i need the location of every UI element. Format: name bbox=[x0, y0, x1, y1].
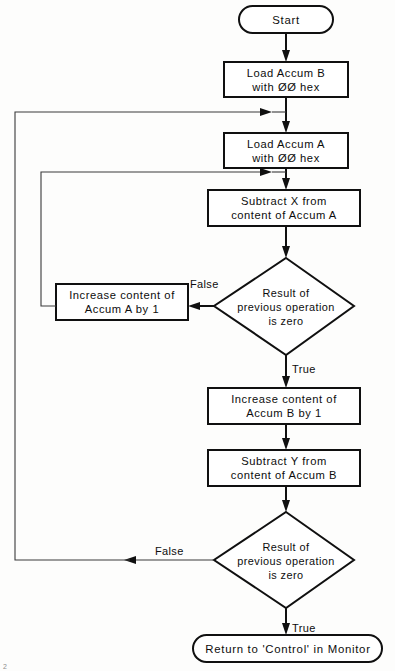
edge-increase-b-to-subtract-y bbox=[282, 424, 290, 450]
node-increase-accum-b: Increase content of Accum B by 1 bbox=[208, 388, 360, 424]
load-accum-a-line1: Load Accum A bbox=[247, 138, 325, 150]
decision-a-line3: is zero bbox=[268, 315, 303, 327]
subtract-y-line2: content of Accum B bbox=[231, 469, 337, 481]
decision-a-line1: Result of bbox=[262, 287, 310, 299]
decision-a-false-label: False bbox=[190, 278, 219, 290]
edge-start-to-load-b bbox=[282, 33, 290, 62]
flowchart-canvas: Start Load Accum B with ØØ hex Load Accu… bbox=[0, 0, 395, 671]
node-increase-accum-a: Increase content of Accum A by 1 bbox=[56, 284, 188, 320]
return-label: Return to 'Control' in Monitor bbox=[205, 643, 370, 655]
increase-accum-b-line1: Increase content of bbox=[231, 393, 337, 405]
edge-decision-b-true: True bbox=[282, 608, 316, 635]
decision-a-line2: previous operation bbox=[237, 301, 335, 313]
node-decision-b: Result of previous operation is zero bbox=[214, 512, 354, 608]
increase-accum-a-line2: Accum A by 1 bbox=[85, 303, 159, 315]
edge-load-b-to-load-a bbox=[282, 97, 290, 133]
node-subtract-x: Subtract X from content of Accum A bbox=[208, 190, 360, 226]
increase-accum-b-line2: Accum B by 1 bbox=[246, 407, 322, 419]
decision-b-line2: previous operation bbox=[237, 555, 335, 567]
decision-b-false-label: False bbox=[155, 545, 184, 557]
edge-decision-a-true: True bbox=[282, 355, 316, 388]
edge-load-a-to-subtract-x bbox=[282, 168, 290, 190]
decision-b-true-label: True bbox=[292, 622, 316, 634]
subtract-x-line2: content of Accum A bbox=[231, 209, 337, 221]
flowchart-page: Start Load Accum B with ØØ hex Load Accu… bbox=[0, 0, 395, 671]
node-load-accum-a: Load Accum A with ØØ hex bbox=[224, 133, 348, 168]
subtract-y-line1: Subtract Y from bbox=[241, 455, 327, 467]
decision-b-line1: Result of bbox=[262, 541, 310, 553]
load-accum-b-line2: with ØØ hex bbox=[251, 81, 320, 93]
node-load-accum-b: Load Accum B with ØØ hex bbox=[224, 62, 348, 97]
edge-outer-loopback: False bbox=[15, 108, 286, 564]
increase-accum-a-line1: Increase content of bbox=[69, 289, 175, 301]
decision-b-line3: is zero bbox=[268, 569, 303, 581]
page-number: 2 bbox=[3, 663, 7, 670]
load-accum-a-line2: with ØØ hex bbox=[251, 152, 320, 164]
start-label: Start bbox=[272, 14, 300, 26]
edge-subtract-y-to-decision-b bbox=[282, 486, 290, 512]
subtract-x-line1: Subtract X from bbox=[241, 195, 327, 207]
load-accum-b-line1: Load Accum B bbox=[247, 67, 326, 79]
node-subtract-y: Subtract Y from content of Accum B bbox=[208, 450, 360, 486]
decision-a-true-label: True bbox=[292, 363, 316, 375]
node-return-monitor: Return to 'Control' in Monitor bbox=[193, 635, 382, 662]
edge-subtract-x-to-decision-a bbox=[282, 226, 290, 258]
node-decision-a: Result of previous operation is zero bbox=[214, 258, 354, 355]
node-start: Start bbox=[239, 6, 333, 33]
